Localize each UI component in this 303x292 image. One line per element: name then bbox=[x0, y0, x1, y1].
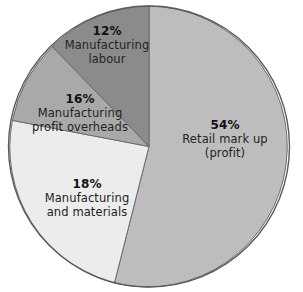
pie-chart: 54% Retail mark up (profit) 18% Manufact… bbox=[0, 0, 303, 292]
pie-chart-canvas bbox=[0, 0, 303, 292]
